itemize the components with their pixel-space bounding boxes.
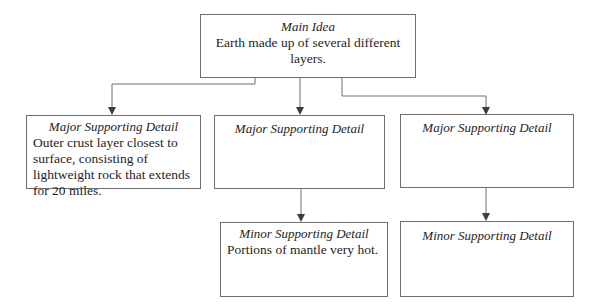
major-detail-box-1: Major Supporting Detail Outer crust laye… <box>26 115 201 189</box>
major-detail-title: Major Supporting Detail <box>27 119 200 135</box>
connector-main-to-major-1 <box>112 77 255 110</box>
major-detail-title: Major Supporting Detail <box>401 120 573 136</box>
major-detail-text: Outer crust layer closest to surface, co… <box>27 135 200 199</box>
main-idea-box: Main Idea Earth made up of several diffe… <box>200 14 416 78</box>
arrow-icon <box>296 107 304 115</box>
minor-detail-box-1: Minor Supporting Detail Portions of mant… <box>220 222 388 297</box>
arrow-icon <box>108 107 116 115</box>
connector-main-to-major-3 <box>342 77 486 110</box>
minor-detail-title: Minor Supporting Detail <box>401 228 573 244</box>
main-idea-text: Earth made up of several different layer… <box>201 35 415 67</box>
major-detail-box-2: Major Supporting Detail <box>214 115 385 189</box>
arrow-icon <box>297 214 305 222</box>
major-detail-box-3: Major Supporting Detail <box>400 114 574 188</box>
arrow-icon <box>482 213 490 221</box>
main-idea-title: Main Idea <box>201 19 415 35</box>
minor-detail-box-2: Minor Supporting Detail <box>400 221 574 297</box>
minor-detail-text: Portions of mantle very hot. <box>221 242 387 258</box>
major-detail-title: Major Supporting Detail <box>215 121 384 137</box>
minor-detail-title: Minor Supporting Detail <box>221 226 387 242</box>
